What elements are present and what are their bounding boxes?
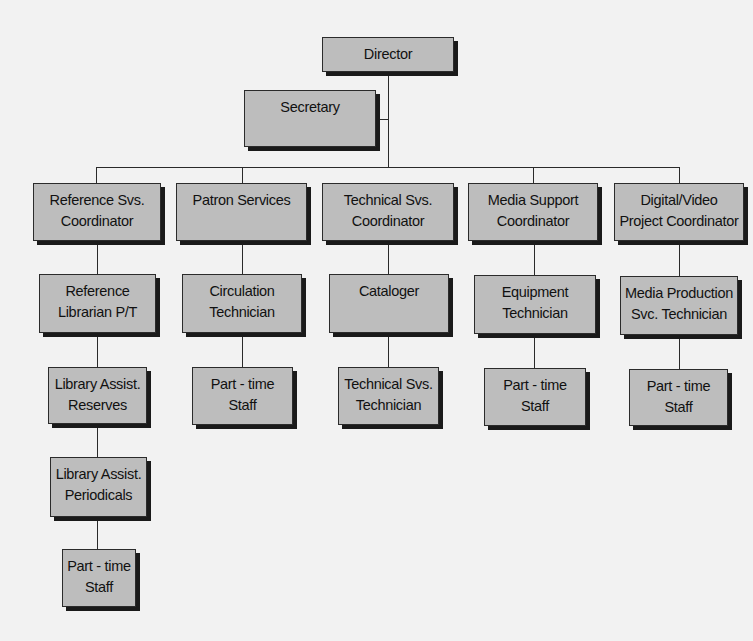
node-director: Director <box>322 37 454 72</box>
node-media-production-technician: Media Production Svc. Technician <box>620 276 738 335</box>
node-label-line1: Library Assist. <box>56 464 142 485</box>
node-label-line1: Part - time <box>503 375 567 396</box>
node-label: Patron Services <box>193 190 291 211</box>
connector-director-trunk <box>388 72 389 167</box>
node-technical-coordinator: Technical Svs. Coordinator <box>322 183 454 241</box>
node-cataloger: Cataloger <box>329 274 449 333</box>
node-label-line1: Library Assist. <box>55 374 141 395</box>
node-digital-video-coordinator: Digital/Video Project Coordinator <box>614 183 744 241</box>
node-label-line2: Staff <box>664 397 692 418</box>
org-chart: Director Secretary Reference Svs. Coordi… <box>0 0 753 641</box>
node-technical-svs-technician: Technical Svs. Technician <box>338 367 439 425</box>
node-label: Secretary <box>280 97 339 118</box>
node-label-line2: Coordinator <box>497 211 569 232</box>
node-label-line2: Staff <box>521 396 549 417</box>
node-label: Cataloger <box>359 281 419 302</box>
node-label-line2: Periodicals <box>65 485 133 506</box>
node-label-line1: Technical Svs. <box>344 190 432 211</box>
node-patron-services: Patron Services <box>176 183 307 241</box>
node-label-line1: Equipment <box>502 282 569 303</box>
connector-col2-top <box>242 167 243 183</box>
node-label-line2: Staff <box>228 395 256 416</box>
node-circulation-technician: Circulation Technician <box>182 274 302 333</box>
node-library-assist-reserves: Library Assist. Reserves <box>48 367 147 424</box>
node-reference-parttime-staff: Part - time Staff <box>62 549 136 607</box>
node-media-parttime-staff: Part - time Staff <box>629 369 728 426</box>
node-secretary: Secretary <box>244 90 376 147</box>
node-label-line2: Technician <box>356 395 422 416</box>
node-label-line1: Part - time <box>211 374 275 395</box>
node-label-line2: Reserves <box>68 395 127 416</box>
node-label-line2: Librarian P/T <box>58 302 137 323</box>
node-label-line1: Technical Svs. <box>344 374 432 395</box>
node-reference-librarian: Reference Librarian P/T <box>39 274 156 333</box>
node-label-line2: Coordinator <box>61 211 133 232</box>
node-label-line1: Digital/Video <box>640 190 717 211</box>
connector-col5-top <box>679 167 680 183</box>
node-label-line2: Svc. Technician <box>631 304 727 325</box>
node-label-line2: Technician <box>502 303 568 324</box>
node-label-line1: Media Production <box>625 283 733 304</box>
node-label-line1: Reference Svs. <box>50 190 145 211</box>
node-label-line2: Coordinator <box>352 211 424 232</box>
node-label-line1: Reference <box>65 281 129 302</box>
connector-secretary <box>376 119 388 120</box>
node-label-line1: Part - time <box>67 556 131 577</box>
node-label-line2: Project Coordinator <box>619 211 738 232</box>
connector-col4-top <box>533 167 534 183</box>
node-library-assist-periodicals: Library Assist. Periodicals <box>50 457 147 517</box>
connector-horizontal-bus <box>96 167 679 168</box>
connector-col1-top <box>96 167 97 183</box>
node-patron-parttime-staff: Part - time Staff <box>192 367 293 425</box>
node-label-line2: Staff <box>85 577 113 598</box>
node-reference-coordinator: Reference Svs. Coordinator <box>33 183 161 241</box>
node-media-support-coordinator: Media Support Coordinator <box>468 183 598 241</box>
node-label-line1: Part - time <box>647 376 711 397</box>
node-label-line1: Circulation <box>209 281 274 302</box>
node-equipment-parttime-staff: Part - time Staff <box>484 368 586 426</box>
node-equipment-technician: Equipment Technician <box>474 275 596 334</box>
node-label-line2: Technician <box>209 302 275 323</box>
node-label-line1: Media Support <box>488 190 578 211</box>
node-label: Director <box>364 44 412 65</box>
